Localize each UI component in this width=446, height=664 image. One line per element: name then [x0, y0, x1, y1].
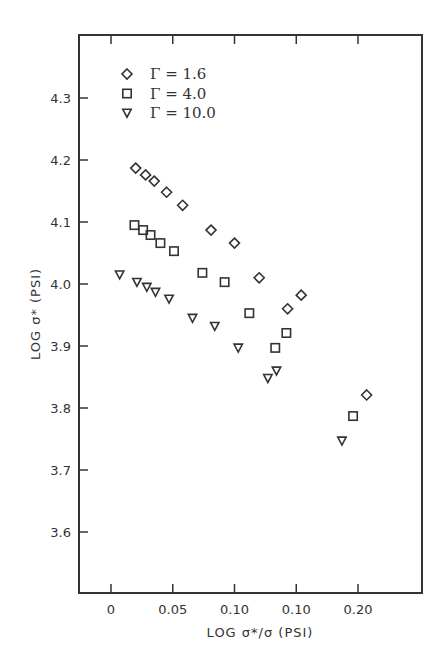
y-tick-label: 3.7 — [50, 463, 71, 478]
square-marker — [170, 247, 178, 255]
square-marker — [220, 278, 228, 286]
legend: Γ = 1.6Γ = 4.0Γ = 10.0 — [122, 65, 216, 122]
data-points — [115, 163, 371, 445]
y-tick-label: 4.2 — [50, 153, 71, 168]
x-axis-ticks: 00.050.100.100.20 — [107, 35, 373, 617]
y-tick-label: 3.9 — [50, 339, 71, 354]
x-tick-label: 0 — [107, 602, 115, 617]
triangle-down-marker — [338, 437, 346, 445]
diamond-marker — [141, 170, 151, 180]
diamond-marker — [178, 200, 188, 210]
legend-label: Γ = 4.0 — [150, 85, 206, 103]
scatter-chart: 00.050.100.100.20 3.63.73.83.94.04.14.24… — [0, 0, 446, 664]
square-marker — [271, 344, 279, 352]
y-tick-label: 4.1 — [50, 215, 71, 230]
diamond-marker — [230, 238, 240, 248]
triangle-down-marker — [211, 322, 219, 330]
x-axis-title: LOG σ*/σ (PSI) — [207, 625, 314, 640]
x-tick-label: 0.10 — [220, 602, 249, 617]
triangle-down-marker — [143, 283, 151, 291]
legend-square-icon — [123, 89, 131, 97]
x-tick-label: 0.10 — [282, 602, 311, 617]
legend-diamond-icon — [122, 69, 132, 79]
diamond-marker — [162, 187, 172, 197]
triangle-down-marker — [264, 375, 272, 383]
legend-label: Γ = 10.0 — [150, 104, 216, 122]
y-tick-label: 3.6 — [50, 525, 71, 540]
square-marker — [156, 239, 164, 247]
triangle-down-marker — [115, 271, 123, 279]
plot-frame — [79, 35, 422, 593]
y-tick-label: 4.3 — [50, 91, 71, 106]
square-marker — [245, 309, 253, 317]
y-tick-label: 4.0 — [50, 277, 71, 292]
triangle-down-marker — [151, 288, 159, 296]
diamond-marker — [206, 225, 216, 235]
square-marker — [198, 269, 206, 277]
y-tick-label: 3.8 — [50, 401, 71, 416]
y-axis-title: LOG σ* (PSI) — [28, 268, 43, 360]
legend-triangle-down-icon — [123, 109, 131, 117]
triangle-down-marker — [234, 344, 242, 352]
square-marker — [282, 329, 290, 337]
y-axis-ticks: 3.63.73.83.94.04.14.24.3 — [50, 91, 88, 540]
square-marker — [349, 412, 357, 420]
legend-label: Γ = 1.6 — [150, 65, 206, 83]
triangle-down-marker — [133, 278, 141, 286]
diamond-marker — [283, 304, 293, 314]
square-marker — [130, 221, 138, 229]
diamond-marker — [296, 290, 306, 300]
x-tick-label: 0.20 — [344, 602, 373, 617]
diamond-marker — [362, 390, 372, 400]
diamond-marker — [149, 176, 159, 186]
x-tick-label: 0.05 — [158, 602, 187, 617]
diamond-marker — [254, 273, 264, 283]
triangle-down-marker — [272, 367, 280, 375]
triangle-down-marker — [188, 314, 196, 322]
diamond-marker — [131, 163, 141, 173]
triangle-down-marker — [165, 295, 173, 303]
